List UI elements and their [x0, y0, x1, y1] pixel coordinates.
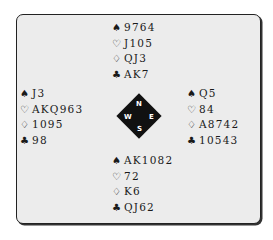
diamond-icon: ♢	[112, 51, 124, 67]
north-diamonds: ♢QJ3	[112, 51, 156, 67]
hand-east: ♠Q5 ♡84 ♢A8742 ♣10543	[187, 86, 239, 148]
hand-west: ♠J3 ♡AKQ963 ♢1095 ♣98	[20, 86, 83, 148]
spade-icon: ♠	[112, 153, 124, 169]
east-clubs: ♣10543	[187, 133, 239, 149]
heart-icon: ♡	[20, 102, 32, 118]
compass-west-label: W	[124, 114, 132, 121]
club-icon: ♣	[112, 200, 124, 216]
spade-icon: ♠	[187, 86, 199, 102]
diamond-icon: ♢	[20, 117, 32, 133]
west-hearts: ♡AKQ963	[20, 102, 83, 118]
north-spades: ♠9764	[112, 20, 156, 36]
south-hearts: ♡72	[112, 169, 173, 185]
spade-icon: ♠	[20, 86, 32, 102]
heart-icon: ♡	[112, 36, 124, 52]
south-diamonds: ♢K6	[112, 184, 173, 200]
west-spades: ♠J3	[20, 86, 83, 102]
club-icon: ♣	[187, 133, 199, 149]
club-icon: ♣	[20, 133, 32, 149]
diamond-icon: ♢	[112, 184, 124, 200]
heart-icon: ♡	[187, 102, 199, 118]
south-clubs: ♣QJ62	[112, 200, 173, 216]
hand-south: ♠AK1082 ♡72 ♢K6 ♣QJ62	[112, 153, 173, 215]
spade-icon: ♠	[112, 20, 124, 36]
heart-icon: ♡	[112, 169, 124, 185]
north-clubs: ♣AK7	[112, 67, 156, 83]
east-diamonds: ♢A8742	[187, 117, 239, 133]
east-hearts: ♡84	[187, 102, 239, 118]
west-diamonds: ♢1095	[20, 117, 83, 133]
hand-north: ♠9764 ♡J105 ♢QJ3 ♣AK7	[112, 20, 156, 82]
diamond-icon: ♢	[187, 117, 199, 133]
north-hearts: ♡J105	[112, 36, 156, 52]
compass-north-label: N	[136, 101, 142, 108]
club-icon: ♣	[112, 67, 124, 83]
east-spades: ♠Q5	[187, 86, 239, 102]
compass-south-label: S	[137, 126, 142, 133]
south-spades: ♠AK1082	[112, 153, 173, 169]
west-clubs: ♣98	[20, 133, 83, 149]
compass-east-label: E	[149, 114, 154, 121]
